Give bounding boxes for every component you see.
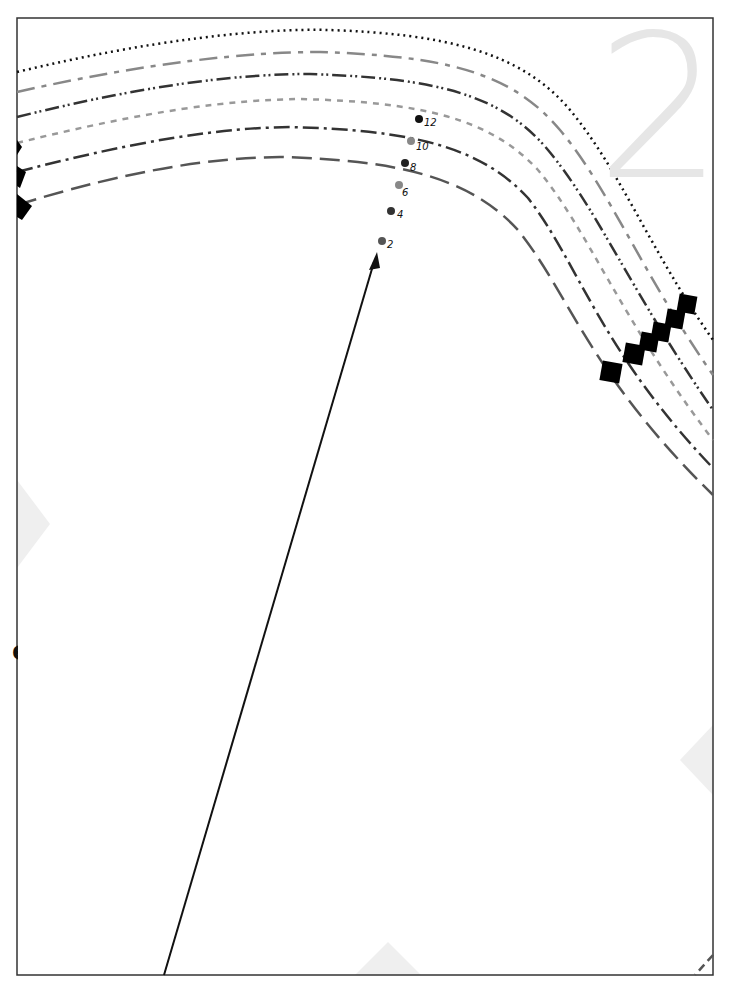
size-label-2: 2 — [387, 239, 393, 250]
pattern-drawing: 12 10 8 6 4 2 — [0, 0, 733, 995]
size-dot-4 — [387, 207, 395, 215]
grainline-arrow — [164, 262, 374, 975]
cut-line-size-4 — [17, 127, 713, 468]
size-label-6: 6 — [402, 187, 408, 198]
alignment-marker-bottom — [355, 942, 421, 975]
edge-text-fragment: e — [12, 636, 18, 666]
pattern-page: 12 10 8 6 4 2 2 e — [0, 0, 733, 995]
cut-line-size-10 — [17, 52, 713, 375]
size-dot-10 — [407, 137, 415, 145]
cut-line-size-2 — [17, 157, 713, 495]
size-dot-12 — [415, 115, 423, 123]
alignment-marker-left — [17, 480, 50, 568]
alignment-marker-right — [680, 725, 713, 795]
size-label-8: 8 — [410, 162, 416, 173]
size-dot-8 — [401, 159, 409, 167]
cut-line-fragment — [695, 955, 713, 975]
size-label-10: 10 — [416, 141, 429, 152]
notch-icon — [622, 342, 645, 365]
notch-icon — [599, 360, 622, 383]
cut-line-size-6 — [17, 99, 713, 440]
arrow-head-icon — [369, 252, 380, 270]
page-border — [17, 18, 713, 975]
cut-line-size-8 — [17, 74, 713, 410]
size-markers: 12 10 8 6 4 2 — [378, 115, 437, 250]
notch-icon — [17, 194, 32, 220]
size-label-12: 12 — [424, 117, 437, 128]
size-dot-2 — [378, 237, 386, 245]
size-label-4: 4 — [397, 209, 403, 220]
